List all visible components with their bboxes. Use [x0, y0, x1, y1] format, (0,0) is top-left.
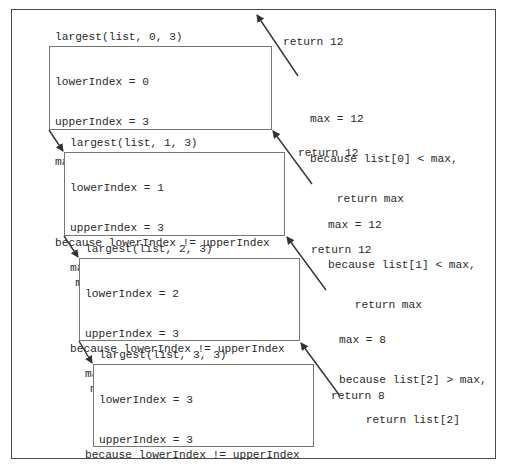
- note-2: max = 12 because list[1] < max, return m…: [328, 192, 476, 326]
- stack-frame-2: lowerIndex = 1 upperIndex = 3 max = beca…: [64, 152, 285, 236]
- frame-line: upperIndex = 3: [70, 222, 284, 235]
- stack-frame-4: lowerIndex = 3 upperIndex = 3 max = beca…: [93, 364, 314, 447]
- note-line: because list[2] > max,: [339, 374, 487, 387]
- frame-line: lowerIndex = 0: [55, 76, 271, 89]
- note-line: max = 12: [328, 219, 476, 232]
- call-label-3: largest(list, 2, 3): [85, 243, 213, 256]
- note-line: max = 8: [339, 334, 487, 347]
- note-line: return list[2]: [339, 414, 487, 427]
- frame-line: lowerIndex = 3: [99, 394, 313, 407]
- frame-line: upperIndex = 3: [99, 434, 313, 447]
- call-label-2: largest(list, 1, 3): [70, 137, 198, 150]
- frame-line: lowerIndex = 1: [70, 182, 284, 195]
- note-line: because list[0] < max,: [310, 153, 458, 166]
- frame-line: upperIndex = 3: [85, 328, 299, 341]
- call-label-4: largest(list, 3, 3): [99, 349, 227, 362]
- stack-frame-1: lowerIndex = 0 upperIndex = 3 max = beca…: [49, 46, 272, 130]
- note-line: because list[1] < max,: [328, 259, 476, 272]
- frame-line: lowerIndex = 2: [85, 288, 299, 301]
- frame-line: upperIndex = 3: [55, 116, 271, 129]
- return-label-1: return 12: [283, 36, 343, 49]
- note-line: max = 12: [310, 113, 458, 126]
- call-label-1: largest(list, 0, 3): [55, 31, 183, 44]
- stack-frame-3: lowerIndex = 2 upperIndex = 3 max = beca…: [79, 258, 300, 341]
- note-3: max = 8 because list[2] > max, return li…: [339, 307, 487, 441]
